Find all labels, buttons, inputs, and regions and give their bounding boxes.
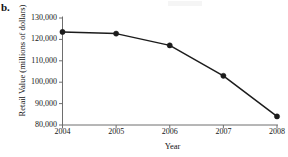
data-markers: [60, 29, 280, 119]
tick-marks: [59, 18, 277, 129]
figure-panel: b. Retail Value (millions of dollars) Ye…: [0, 0, 288, 157]
plot-area: [0, 0, 288, 157]
